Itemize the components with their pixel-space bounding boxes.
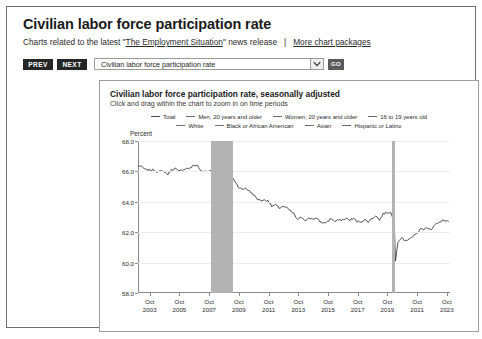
series-path-total bbox=[138, 165, 449, 261]
legend-item-black-or-african-american[interactable]: Black or African American bbox=[215, 123, 294, 129]
x-axis-tick: Oct2013 bbox=[283, 293, 313, 313]
x-tick-year: 2013 bbox=[283, 306, 313, 313]
legend-item-16-to-19-years-old[interactable]: 16 to 19 years old bbox=[368, 114, 427, 120]
x-axis-tick: Oct2007 bbox=[194, 293, 224, 313]
legend-row-age-sex: TotalMen, 20 years and olderWomen, 20 ye… bbox=[100, 112, 478, 121]
x-axis-tick: Oct2021 bbox=[402, 293, 432, 313]
x-tick-year: 2021 bbox=[402, 306, 432, 313]
x-tick-year: 2003 bbox=[135, 306, 165, 313]
x-axis-tick: Oct2017 bbox=[343, 293, 373, 313]
y-tick-mark bbox=[135, 263, 138, 264]
series-line-total bbox=[138, 141, 450, 293]
go-button[interactable]: GO bbox=[328, 59, 344, 70]
legend-item-hispanic-or-latino[interactable]: Hispanic or Latino bbox=[342, 123, 401, 129]
screenshot-root: Civilian labor force participation rate … bbox=[0, 0, 482, 339]
x-tick-year: 2017 bbox=[343, 306, 373, 313]
employment-situation-link[interactable]: The Employment Situation bbox=[126, 37, 223, 47]
x-tick-mark bbox=[328, 293, 329, 296]
x-tick-mark bbox=[298, 293, 299, 296]
chart-instructions: Click and drag within the chart to zoom … bbox=[110, 100, 288, 107]
x-tick-month: Oct bbox=[164, 298, 194, 305]
x-axis-tick: Oct2015 bbox=[313, 293, 343, 313]
recession-band-2020 bbox=[392, 141, 396, 293]
legend-label: White bbox=[188, 123, 203, 129]
chart-panel: Civilian labor force participation rate,… bbox=[99, 80, 479, 332]
x-tick-year: 2011 bbox=[254, 306, 284, 313]
y-axis-tick-label: 60.0 bbox=[122, 259, 134, 266]
x-tick-month: Oct bbox=[372, 298, 402, 305]
legend-item-total[interactable]: Total bbox=[151, 114, 175, 120]
x-tick-mark bbox=[417, 293, 418, 296]
legend-item-white[interactable]: White bbox=[176, 123, 203, 129]
x-axis-tick: Oct2019 bbox=[372, 293, 402, 313]
prev-button[interactable]: PREV bbox=[23, 59, 53, 70]
x-tick-year: 2015 bbox=[313, 306, 343, 313]
legend-label: Asian bbox=[317, 123, 332, 129]
page-frame: Civilian labor force participation rate … bbox=[6, 6, 476, 328]
x-tick-year: 2019 bbox=[372, 306, 402, 313]
y-axis-tick-label: 64.0 bbox=[122, 198, 134, 205]
legend-label: Women, 20 years and older bbox=[285, 114, 357, 120]
y-axis-tick-label: 68.0 bbox=[122, 138, 134, 145]
more-chart-packages-link[interactable]: More chart packages bbox=[293, 37, 370, 47]
y-gridline bbox=[138, 202, 450, 203]
y-gridline bbox=[138, 232, 450, 233]
x-tick-mark bbox=[387, 293, 388, 296]
intro-prefix: Charts related to the latest " bbox=[23, 37, 126, 47]
y-tick-mark bbox=[135, 232, 138, 233]
x-tick-month: Oct bbox=[402, 298, 432, 305]
legend-swatch-icon bbox=[305, 125, 314, 126]
x-tick-month: Oct bbox=[224, 298, 254, 305]
intro-suffix: " news release bbox=[223, 37, 277, 47]
chart-select-value: Civilian labor force participation rate bbox=[95, 60, 310, 69]
legend-swatch-icon bbox=[342, 125, 351, 126]
x-axis-tick: Oct2009 bbox=[224, 293, 254, 313]
intro-separator: | bbox=[277, 37, 293, 47]
y-axis-unit-label: Percent bbox=[130, 130, 152, 137]
y-gridline bbox=[138, 141, 450, 142]
chevron-down-icon[interactable] bbox=[310, 59, 323, 69]
y-axis-tick-label: 62.0 bbox=[122, 229, 134, 236]
x-axis-tick: Oct2011 bbox=[254, 293, 284, 313]
x-axis-tick: Oct2023 bbox=[432, 293, 462, 313]
legend-item-women-20-years-and-older[interactable]: Women, 20 years and older bbox=[273, 114, 357, 120]
plot-wrapper: Percent 58.060.062.064.066.068.0Oct2003O… bbox=[100, 129, 480, 333]
x-tick-mark bbox=[150, 293, 151, 296]
x-axis-tick: Oct2003 bbox=[135, 293, 165, 313]
y-axis-tick-label: 58.0 bbox=[122, 290, 134, 297]
intro-line: Charts related to the latest "The Employ… bbox=[23, 37, 371, 47]
legend-swatch-icon bbox=[368, 116, 377, 117]
y-gridline bbox=[138, 263, 450, 264]
y-tick-mark bbox=[135, 171, 138, 172]
x-tick-month: Oct bbox=[313, 298, 343, 305]
x-tick-year: 2009 bbox=[224, 306, 254, 313]
x-tick-mark bbox=[447, 293, 448, 296]
chart-legend: TotalMen, 20 years and olderWomen, 20 ye… bbox=[100, 112, 478, 130]
legend-swatch-icon bbox=[273, 116, 282, 117]
x-tick-mark bbox=[239, 293, 240, 296]
legend-swatch-icon bbox=[186, 116, 195, 117]
y-tick-mark bbox=[135, 202, 138, 203]
x-tick-month: Oct bbox=[194, 298, 224, 305]
x-tick-month: Oct bbox=[254, 298, 284, 305]
x-tick-year: 2005 bbox=[164, 306, 194, 313]
x-tick-year: 2023 bbox=[432, 306, 462, 313]
y-gridline bbox=[138, 171, 450, 172]
x-tick-mark bbox=[358, 293, 359, 296]
legend-swatch-icon bbox=[151, 116, 160, 117]
x-tick-month: Oct bbox=[283, 298, 313, 305]
recession-band-2007-2009 bbox=[211, 141, 233, 293]
legend-item-asian[interactable]: Asian bbox=[305, 123, 332, 129]
x-tick-month: Oct bbox=[343, 298, 373, 305]
legend-label: Hispanic or Latino bbox=[354, 123, 401, 129]
y-tick-mark bbox=[135, 141, 138, 142]
next-button[interactable]: NEXT bbox=[57, 59, 87, 70]
x-axis-tick: Oct2005 bbox=[164, 293, 194, 313]
chart-select[interactable]: Civilian labor force participation rate bbox=[94, 58, 324, 70]
page-title: Civilian labor force participation rate bbox=[23, 16, 271, 32]
plot-area[interactable]: 58.060.062.064.066.068.0Oct2003Oct2005Oc… bbox=[138, 141, 450, 293]
chart-title: Civilian labor force participation rate,… bbox=[110, 89, 340, 99]
x-tick-mark bbox=[269, 293, 270, 296]
legend-item-men-20-years-and-older[interactable]: Men, 20 years and older bbox=[186, 114, 262, 120]
x-tick-year: 2007 bbox=[194, 306, 224, 313]
